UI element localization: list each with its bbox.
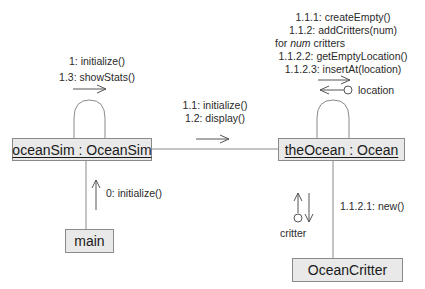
message-1-1-2-3-insertat: 1.1.2.3: insertAt(location) <box>268 63 418 76</box>
return-location-label: location <box>358 84 394 97</box>
message-1-1-2-addcritters: 1.1.2: addCritters(num) <box>268 24 418 37</box>
ocean-sim-self-arrow <box>73 85 106 93</box>
message-1-initialize: 1: initialize() <box>52 55 142 68</box>
critter-return-arrow <box>294 193 302 222</box>
ocean-sim-self-messages: 1: initialize() 1.3: showStats() <box>52 55 142 84</box>
sim-to-ocean-arrow <box>196 135 229 143</box>
ocean-self-messages: 1.1.1: createEmpty() 1.1.2: addCritters(… <box>268 11 418 76</box>
ocean-self-link <box>317 100 349 138</box>
object-ocean-critter: OceanCritter <box>292 258 403 282</box>
message-1-2-display: 1.2: display() <box>175 112 255 125</box>
message-1-3-showstats: 1.3: showStats() <box>52 71 142 84</box>
return-critter-label: critter <box>280 227 306 240</box>
object-main-label: main <box>74 233 104 249</box>
main-to-sim-arrow <box>92 180 100 210</box>
location-return-arrow <box>320 86 352 94</box>
loop-guard: for num critters <box>268 37 418 50</box>
object-ocean-sim: oceanSim : OceanSim <box>12 138 152 161</box>
object-the-ocean: theOcean : Ocean <box>278 138 405 161</box>
message-1-1-2-1-new: 1.1.2.1: new() <box>340 200 404 213</box>
object-the-ocean-label: theOcean : Ocean <box>285 142 399 158</box>
ocean-self-arrow <box>318 76 350 84</box>
object-ocean-critter-label: OceanCritter <box>308 262 387 278</box>
message-1-1-initialize: 1.1: initialize() <box>175 99 255 112</box>
ocean-sim-self-link <box>74 100 105 138</box>
loop-guard-var: num <box>290 37 310 49</box>
ocean-to-critter-arrow <box>305 193 313 222</box>
object-ocean-sim-label: oceanSim : OceanSim <box>12 142 151 158</box>
message-1-1-2-2-getemptylocation: 1.1.2.2: getEmptyLocation() <box>268 50 418 63</box>
loop-guard-prefix: for <box>275 37 290 49</box>
message-0-initialize: 0: initialize() <box>106 187 162 200</box>
collaboration-diagram: oceanSim : OceanSim theOcean : Ocean mai… <box>0 0 425 289</box>
message-1-1-1-createempty: 1.1.1: createEmpty() <box>268 11 418 24</box>
loop-guard-suffix: critters <box>311 37 345 49</box>
object-main: main <box>65 229 114 253</box>
sim-to-ocean-messages: 1.1: initialize() 1.2: display() <box>175 99 255 125</box>
